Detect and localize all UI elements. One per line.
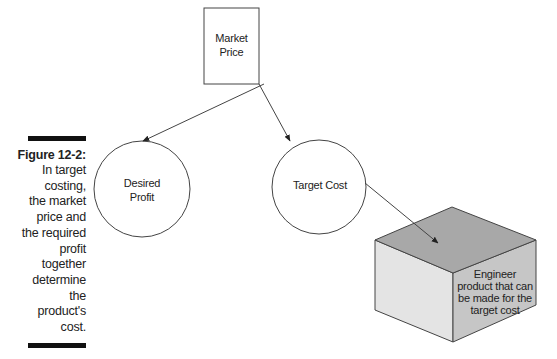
figure-caption: Figure 12-2: In target costing, the mark… <box>6 136 86 348</box>
figure-number: Figure 12-2: <box>6 148 86 163</box>
arrow-price-to-profit <box>143 84 264 141</box>
arrow-price-to-target-cost <box>259 84 290 141</box>
caption-line: determine <box>6 273 86 289</box>
caption-line: the <box>6 289 86 305</box>
market-price-node: Market Price <box>204 8 259 84</box>
caption-body: In target costing, the market price and … <box>6 163 86 336</box>
caption-bottom-rule <box>28 343 86 348</box>
desired-profit-label-line2: Profit <box>130 191 155 203</box>
market-price-label-line1: Market <box>215 32 248 44</box>
cube-label-line1: Engineer <box>474 268 517 280</box>
target-cost-node: Target Cost <box>272 140 366 234</box>
caption-top-rule <box>28 136 86 141</box>
caption-line: the market <box>6 194 86 210</box>
caption-line: costing, <box>6 179 86 195</box>
target-cost-label: Target Cost <box>293 179 347 191</box>
caption-line: In target <box>6 163 86 179</box>
cube-label-line3: be made for the <box>458 292 532 304</box>
caption-line: profit <box>6 242 86 258</box>
caption-line: the required <box>6 226 86 242</box>
cube-label-line4: target cost <box>470 304 519 316</box>
desired-profit-label-line1: Desired <box>124 177 161 189</box>
desired-profit-node: Desired Profit <box>94 141 190 237</box>
caption-line: together <box>6 257 86 273</box>
engineer-product-cube: Engineer product that can be made for th… <box>375 207 536 342</box>
caption-line: product's <box>6 304 86 320</box>
caption-line: cost. <box>6 320 86 336</box>
market-price-label-line2: Price <box>219 46 243 58</box>
caption-line: price and <box>6 210 86 226</box>
cube-label-line2: product that can <box>457 280 533 292</box>
